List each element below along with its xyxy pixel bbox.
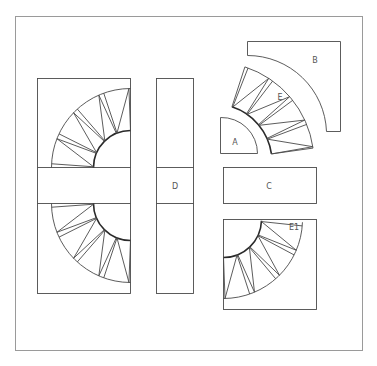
arc-fan-e (232, 67, 313, 154)
spike-line (249, 247, 275, 278)
spike-line (246, 78, 268, 114)
piece-d: D (157, 79, 194, 294)
label-a: A (232, 138, 238, 147)
spike-line (52, 164, 94, 167)
piece-b: B (248, 42, 341, 132)
arc-fan-bottom (52, 204, 131, 283)
end-line (232, 67, 245, 107)
label-d: D (172, 182, 178, 191)
spike-line (267, 120, 305, 138)
spike-line (77, 109, 105, 141)
spike-line (74, 230, 105, 259)
label-e1: E1 (289, 223, 299, 232)
spike-line (258, 97, 289, 125)
spike-line (74, 113, 105, 142)
spike-line (117, 238, 129, 283)
spike-line (117, 89, 129, 134)
spike-line (267, 139, 313, 147)
piece-c: C (224, 168, 317, 204)
label-b: B (312, 56, 318, 65)
spike-line (57, 139, 96, 154)
left-block-outline (38, 79, 131, 294)
piece-e1-outline (224, 220, 317, 310)
assembled-block-left (38, 79, 131, 294)
label-c: C (266, 182, 272, 191)
spike-line (57, 204, 94, 232)
spike-line (57, 218, 96, 233)
spike-line (250, 247, 280, 275)
piece-b-outline (248, 42, 341, 132)
piece-e: E (232, 67, 313, 154)
outer-frame (16, 17, 363, 351)
arc-fan-top (52, 89, 131, 168)
outer-arc (245, 67, 313, 148)
spike-line (57, 139, 94, 167)
spike-line (237, 255, 250, 294)
spike-line (259, 120, 305, 125)
spike-line (225, 255, 237, 298)
label-e: E (277, 93, 282, 102)
spike-line (104, 238, 117, 278)
spike-line (104, 93, 117, 133)
piece-a-outline (221, 117, 258, 153)
spike-line (267, 124, 306, 139)
spike-line (271, 147, 312, 154)
spike-line (77, 230, 105, 262)
arc-fan-e1 (224, 221, 303, 299)
piece-a: A (221, 117, 258, 153)
spike-line (52, 204, 94, 207)
piece-e1-block: E1 (224, 220, 317, 310)
spike-line (258, 235, 296, 250)
pattern-diagram: D B E A C E1 (0, 0, 377, 366)
inner-arc (232, 107, 272, 154)
